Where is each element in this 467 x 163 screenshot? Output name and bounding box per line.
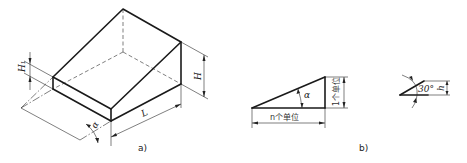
panel-b-triangle: α n个单位 1个单位 b) [252, 77, 368, 153]
hidden-edge-right [123, 52, 181, 84]
label-n-units: n个单位 [270, 112, 299, 122]
panel-c-chamfer: h 30° [400, 75, 450, 108]
panel-a-wedge: H₁ H L α a) [17, 9, 208, 153]
label-h: h [436, 85, 446, 91]
technical-drawing: H₁ H L α a) α n [0, 0, 467, 163]
caption-b: b) [359, 143, 368, 153]
label-h: H [193, 72, 203, 81]
arrow-icon [319, 122, 325, 125]
arrow-icon [343, 102, 346, 108]
label-l: L [139, 107, 150, 119]
caption-a: a) [138, 143, 147, 153]
h1-extension-lower [24, 73, 53, 89]
label-30-degrees: 30° [418, 84, 434, 94]
construction-line-lower [21, 89, 53, 108]
l-dimension-line [111, 104, 181, 137]
h-extension-upper [181, 42, 208, 57]
arrow-icon [343, 77, 346, 83]
label-alpha: α [304, 90, 310, 100]
label-1-unit: 1个单位 [331, 77, 341, 106]
arrow-icon [95, 138, 99, 143]
arrow-icon [203, 55, 206, 61]
arrow-icon [175, 104, 181, 108]
arrow-icon [446, 81, 449, 85]
hypotenuse [252, 77, 325, 108]
label-h1: H₁ [17, 61, 27, 73]
h1-extension-upper [24, 61, 53, 77]
angle-arc [402, 75, 417, 108]
arrow-icon [29, 58, 32, 64]
construction-line-upper [21, 77, 53, 108]
arrow-icon [111, 133, 117, 137]
arrow-icon [252, 122, 258, 125]
construction-line-base [21, 108, 80, 140]
